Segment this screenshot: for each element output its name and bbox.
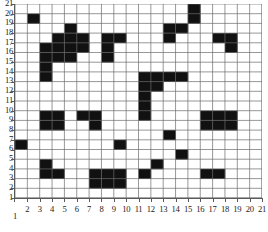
x-tick-mark bbox=[40, 199, 41, 202]
x-tick-mark bbox=[163, 199, 164, 202]
y-tick-mark bbox=[11, 72, 14, 73]
y-tick-mark bbox=[11, 198, 14, 199]
x-tick-mark bbox=[114, 199, 115, 202]
x-tick-mark bbox=[77, 199, 78, 202]
x-tick-mark bbox=[52, 199, 53, 202]
x-tick-mark bbox=[151, 199, 152, 202]
x-tick-label: 21 bbox=[254, 205, 268, 214]
y-tick-mark bbox=[11, 23, 14, 24]
y-tick-mark bbox=[11, 188, 14, 189]
x-tick-mark bbox=[27, 199, 28, 202]
y-tick-mark bbox=[11, 33, 14, 34]
x-axis-labels: 123456789101112131415161718192021 bbox=[0, 0, 268, 232]
y-tick-mark bbox=[11, 130, 14, 131]
y-tick-mark bbox=[11, 14, 14, 15]
x-tick-mark bbox=[89, 199, 90, 202]
x-tick-mark bbox=[126, 199, 127, 202]
x-tick-mark bbox=[225, 199, 226, 202]
x-tick-mark bbox=[101, 199, 102, 202]
x-tick-mark bbox=[213, 199, 214, 202]
y-tick-mark bbox=[11, 140, 14, 141]
y-tick-mark bbox=[11, 82, 14, 83]
y-tick-mark bbox=[11, 91, 14, 92]
x-tick-mark bbox=[262, 199, 263, 202]
y-tick-mark bbox=[11, 159, 14, 160]
y-tick-mark bbox=[11, 179, 14, 180]
grid-figure: 123456789101112131415161718192021 123456… bbox=[0, 0, 268, 232]
x-tick-mark bbox=[250, 199, 251, 202]
y-tick-mark bbox=[11, 150, 14, 151]
y-tick-mark bbox=[11, 53, 14, 54]
x-tick-mark bbox=[176, 199, 177, 202]
y-tick-mark bbox=[11, 120, 14, 121]
y-tick-mark bbox=[11, 43, 14, 44]
x-tick-mark bbox=[188, 199, 189, 202]
x-tick-mark bbox=[200, 199, 201, 202]
y-tick-mark bbox=[11, 62, 14, 63]
y-tick-mark bbox=[11, 4, 14, 5]
x-tick-mark bbox=[139, 199, 140, 202]
x-tick-mark bbox=[64, 199, 65, 202]
y-tick-mark bbox=[11, 111, 14, 112]
x-tick-mark bbox=[237, 199, 238, 202]
y-tick-mark bbox=[11, 101, 14, 102]
y-tick-mark bbox=[11, 169, 14, 170]
